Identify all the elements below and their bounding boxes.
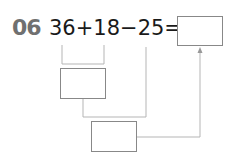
step1-box[interactable] [61, 69, 106, 99]
step2-box[interactable] [92, 122, 137, 152]
arrow-up-icon [198, 47, 203, 53]
diagram-lines [0, 0, 237, 167]
bracket-36-18 [62, 45, 104, 64]
answer-box[interactable] [178, 17, 223, 46]
